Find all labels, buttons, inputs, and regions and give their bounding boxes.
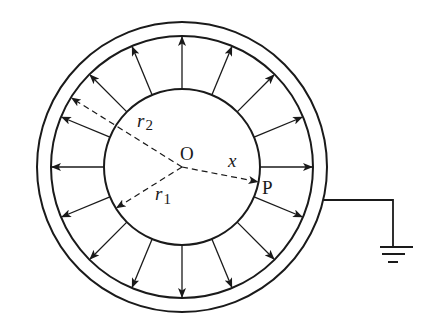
spherical-capacitor-diagram: O r2 r1 x P	[0, 0, 439, 330]
r2-label-sub: 2	[145, 117, 153, 133]
point-p-label: P	[262, 177, 273, 198]
r2-label: r2	[137, 110, 153, 133]
field-arrow	[62, 117, 110, 137]
field-arrow	[237, 222, 274, 259]
field-arrow	[90, 222, 127, 259]
r1-dashed-line	[117, 167, 182, 208]
r2-dashed-line	[72, 98, 182, 167]
ground-connection	[323, 200, 413, 262]
distance-x-label: x	[227, 150, 237, 171]
r1-label: r1	[155, 183, 171, 207]
field-arrow	[62, 197, 110, 217]
r1-label-sub: 1	[163, 191, 171, 207]
r2-label-main: r	[137, 110, 145, 131]
r1-label-main: r	[155, 183, 163, 204]
field-arrow	[254, 117, 302, 137]
ground-wire	[323, 200, 393, 247]
field-arrow	[237, 75, 274, 112]
ground-symbol-icon	[380, 247, 413, 262]
field-arrow	[254, 197, 302, 217]
field-arrow	[132, 47, 152, 95]
field-arrow	[212, 47, 232, 95]
field-arrow	[90, 75, 127, 112]
field-arrow	[212, 239, 232, 287]
x-dashed-line	[182, 167, 258, 182]
field-arrow	[132, 239, 152, 287]
center-label: O	[180, 143, 194, 164]
